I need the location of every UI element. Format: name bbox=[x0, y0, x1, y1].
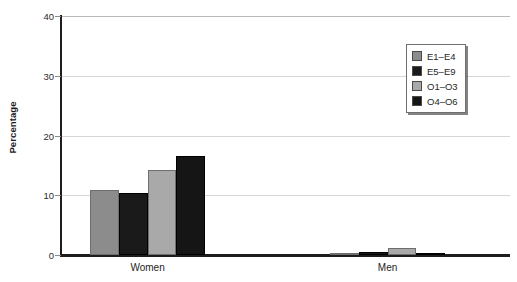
gridline bbox=[62, 195, 510, 196]
x-axis-line bbox=[60, 254, 510, 257]
legend-swatch-icon bbox=[412, 66, 422, 76]
legend: E1–E4E5–E9O1–O3O4–O6 bbox=[406, 44, 466, 113]
x-axis-category-label: Women bbox=[130, 262, 164, 273]
y-axis-tick-mark bbox=[55, 76, 61, 77]
legend-item[interactable]: E5–E9 bbox=[412, 65, 458, 77]
legend-swatch-icon bbox=[412, 96, 422, 106]
legend-item[interactable]: O1–O3 bbox=[412, 80, 458, 92]
y-axis-tick-label: 20 bbox=[24, 130, 54, 141]
legend-item[interactable]: O4–O6 bbox=[412, 95, 458, 107]
y-axis-tick-mark bbox=[55, 16, 61, 17]
legend-item-label: E1–E4 bbox=[427, 51, 456, 62]
y-axis-tick-mark bbox=[55, 255, 61, 256]
legend-item-label: O1–O3 bbox=[427, 81, 458, 92]
y-axis-tick-mark bbox=[55, 195, 61, 196]
legend-item[interactable]: E1–E4 bbox=[412, 50, 458, 62]
y-axis-title: Percentage bbox=[2, 0, 22, 255]
x-axis-category-label: Men bbox=[378, 262, 397, 273]
gridline bbox=[62, 136, 510, 137]
bar-chart: Percentage 010203040 WomenMen E1–E4E5–E9… bbox=[0, 0, 517, 282]
y-axis-tick-label: 10 bbox=[24, 190, 54, 201]
y-axis-tick-mark bbox=[55, 136, 61, 137]
legend-item-label: E5–E9 bbox=[427, 66, 456, 77]
y-axis-tick-label: 30 bbox=[24, 70, 54, 81]
legend-swatch-icon bbox=[412, 51, 422, 61]
y-axis-tick-label: 40 bbox=[24, 11, 54, 22]
legend-item-label: O4–O6 bbox=[427, 96, 458, 107]
y-axis-tick-label: 0 bbox=[24, 250, 54, 261]
legend-swatch-icon bbox=[412, 81, 422, 91]
plot-top-border bbox=[62, 16, 510, 17]
y-axis-title-label: Percentage bbox=[7, 101, 18, 153]
